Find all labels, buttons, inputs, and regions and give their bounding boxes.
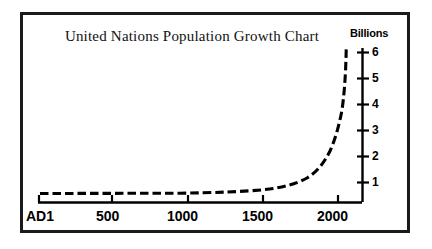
y-tick-label-4: 4 [372,98,379,110]
population-curve [40,47,346,194]
population-growth-chart-screenshot: United Nations Population Growth Chart B… [0,0,432,249]
x-tick-label-ad1: AD1 [26,209,54,223]
x-tick-label-2000: 2000 [317,209,348,223]
y-tick-label-5: 5 [372,72,379,84]
x-axis-ticks [39,195,338,202]
chart-plot-area [0,0,432,249]
y-tick-label-1: 1 [372,176,379,188]
y-tick-label-2: 2 [372,150,379,162]
x-tick-label-1500: 1500 [242,209,273,223]
y-tick-label-3: 3 [372,124,379,136]
x-tick-label-500: 500 [96,209,119,223]
x-tick-label-1000: 1000 [167,209,198,223]
y-tick-label-6: 6 [372,46,379,58]
